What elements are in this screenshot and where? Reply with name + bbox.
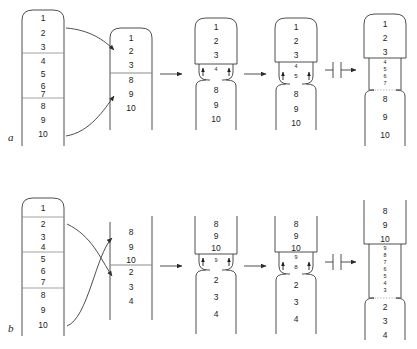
panel-label-a: a: [8, 131, 14, 143]
b-s5-neck-item: 7: [384, 260, 387, 265]
a-barred-arrow: [325, 62, 356, 78]
a-s4-bottom-item: 8: [294, 90, 299, 99]
a-s5-neck-item: 4: [384, 60, 387, 65]
b-s4-top-item: 8: [294, 220, 299, 229]
diagram-vector-layer: [0, 0, 417, 349]
a-s5-bottom-item: 10: [380, 131, 389, 140]
b-curve-arrow-upper-to-lower: [67, 224, 112, 276]
b-s5-bottom-item: 4: [383, 331, 388, 340]
a-s1-item: 2: [41, 29, 46, 38]
a-s4-bottom-item: 9: [294, 105, 299, 114]
a-s5-bottom-item: 9: [383, 113, 388, 122]
b-s1-item: 5: [41, 255, 46, 264]
b-s2-item: 9: [129, 243, 134, 252]
b-s4-bottom-item: 2: [294, 281, 299, 290]
a-s5-top-item: 2: [383, 34, 388, 43]
b-s5-top-item: 9: [383, 221, 388, 230]
b-s1-item: 8: [41, 291, 46, 300]
b-s1-item: 6: [41, 267, 46, 276]
b-s3-neck-item: 9: [215, 258, 218, 263]
a-s3-neck-item: 4: [215, 67, 218, 72]
b-s5-top-item: 8: [383, 207, 388, 216]
a-s3-bottom-item: 10: [211, 115, 220, 124]
b-s2-item: 8: [129, 228, 134, 237]
b-s3-top-item: 8: [214, 220, 219, 229]
a-s1-item: 7: [41, 90, 46, 99]
b-s3-top-item: 10: [211, 244, 220, 253]
b-s4-neck-item: 9: [295, 255, 298, 260]
b-s5-neck-item: 4: [384, 281, 387, 286]
a-s1-item: 5: [41, 70, 46, 79]
b-s2-item: 4: [129, 297, 134, 306]
b-s4-bottom-item: 4: [294, 315, 299, 324]
b-s1-item: 4: [41, 243, 46, 252]
a-s4-top-item: 2: [294, 37, 299, 46]
a-s4-bottom-item: 10: [291, 119, 300, 128]
a-s4-top-item: 1: [294, 23, 299, 32]
b-s5-neck-item: 8: [384, 253, 387, 258]
a-s5-bottom-item: 8: [383, 95, 388, 104]
b-s3-top-item: 9: [214, 232, 219, 241]
b-s4-neck-item: 8: [294, 264, 297, 270]
a-s3-top-item: 3: [214, 51, 219, 60]
a-s5-neck-item: 7: [384, 81, 387, 86]
a-s5-top-item: 3: [383, 48, 388, 57]
a-s3-top-item: 1: [214, 23, 219, 32]
b-s3-bottom-item: 2: [214, 276, 219, 285]
b-s1-item: 2: [41, 220, 46, 229]
b-s4-top-item: 10: [291, 244, 300, 253]
b-s5-neck-item: 6: [384, 267, 387, 272]
a-s4-top-item: 3: [294, 51, 299, 60]
a-curve-arrow-bottom: [66, 96, 114, 136]
b-s1-item: 10: [38, 321, 47, 330]
b-s3-bottom-item: 3: [214, 293, 219, 302]
a-s5-neck-item: 5: [384, 67, 387, 72]
b-s5-top-item: 10: [380, 235, 389, 244]
a-s5-top-item: 1: [383, 20, 388, 29]
a-s1-item: 8: [41, 102, 46, 111]
panel-label-b: b: [8, 322, 14, 334]
b-s1-item: 3: [41, 233, 46, 242]
a-s2-item: 10: [126, 104, 135, 113]
b-s4-bottom-item: 3: [294, 298, 299, 307]
a-s4-neck-item: 4: [295, 64, 298, 69]
b-s4-top-item: 9: [294, 232, 299, 241]
a-s1-item: 9: [41, 116, 46, 125]
a-s2-item: 1: [129, 34, 134, 43]
b-s5-bottom-item: 3: [383, 317, 388, 326]
a-s3-bottom-item: 8: [214, 86, 219, 95]
a-s1-item: 3: [41, 43, 46, 52]
b-s2-item: 2: [129, 268, 134, 277]
a-s3-bottom-item: 9: [214, 101, 219, 110]
a-s2-item: 8: [129, 76, 134, 85]
b-s1-item: 7: [41, 278, 46, 287]
b-barred-arrow: [325, 254, 356, 270]
a-s2-item: 3: [129, 61, 134, 70]
b-s5-neck-item: 3: [384, 288, 387, 293]
b-s5-neck-item: 5: [384, 274, 387, 279]
a-s3-top-item: 2: [214, 37, 219, 46]
a-s1-item: 4: [41, 57, 46, 66]
b-curve-arrow-lower-to-upper: [67, 238, 112, 326]
a-s1-item: 1: [41, 14, 46, 23]
a-s1-item: 10: [38, 130, 47, 139]
a-s2-item: 9: [129, 90, 134, 99]
a-s2-item: 2: [129, 47, 134, 56]
b-s2-item: 3: [129, 283, 134, 292]
a-s5-neck-item: 6: [384, 74, 387, 79]
b-s5-neck-item: 9: [384, 246, 387, 251]
a-curve-arrow-top: [66, 28, 114, 50]
b-s3-bottom-item: 4: [214, 310, 219, 319]
b-s2-item: 10: [126, 256, 135, 265]
figure-root: a b 1 2 3 4 5 6 7 8 9 10 1 2 3 8 9 10 1 …: [0, 0, 417, 349]
b-s1-item: 9: [41, 306, 46, 315]
a-s4-neck-item: 5: [294, 73, 297, 79]
b-s5-bottom-item: 2: [383, 303, 388, 312]
b-s1-item: 1: [41, 204, 46, 213]
